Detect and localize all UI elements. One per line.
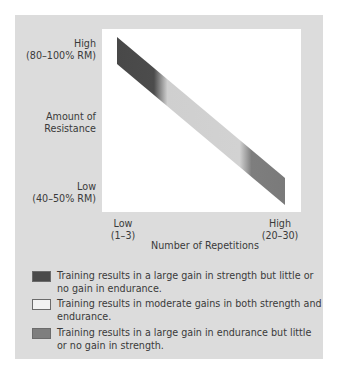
- x-axis-low-label: Low (1–3): [108, 218, 138, 242]
- y-axis-high-label: High (80–100% RM): [18, 38, 96, 62]
- x-axis-high-label: High (20–30): [258, 218, 302, 242]
- x-axis-title: Number of Repetitions: [140, 240, 270, 252]
- legend-swatch-light: [32, 299, 51, 310]
- y-axis-low-label: Low (40–50% RM): [18, 181, 96, 205]
- legend-text: Training results in a large gain in stre…: [57, 270, 322, 295]
- legend-swatch-medium: [32, 328, 51, 339]
- training-zone-band: [117, 37, 285, 205]
- y-axis-title: Amount of Resistance: [18, 111, 96, 135]
- legend-swatch-dark: [32, 271, 51, 282]
- plot-area: [102, 29, 301, 212]
- legend-text: Training results in a large gain in endu…: [57, 327, 322, 352]
- resistance-band-chart: [102, 29, 301, 212]
- legend-text: Training results in moderate gains in bo…: [57, 298, 322, 323]
